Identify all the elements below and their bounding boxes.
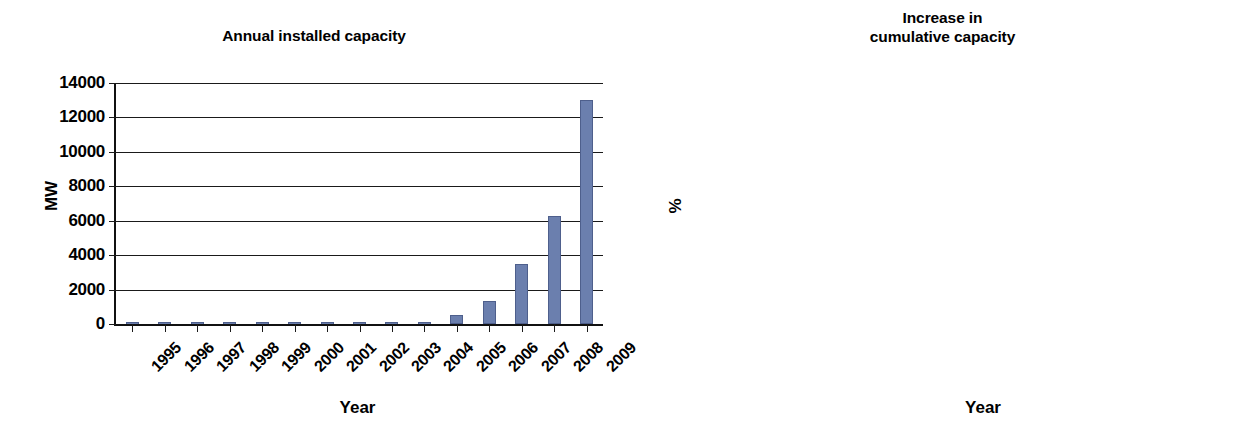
gridline-horizontal bbox=[116, 152, 603, 153]
y-axis-tick bbox=[109, 117, 116, 118]
bar-2008 bbox=[548, 216, 561, 324]
bar-2006 bbox=[483, 301, 496, 324]
gridline-horizontal bbox=[116, 255, 603, 256]
x-axis-tick bbox=[132, 324, 133, 332]
x-axis-tick-label: 2003 bbox=[408, 339, 445, 376]
y-axis-tick bbox=[109, 290, 116, 291]
x-axis-tick-label: 2000 bbox=[311, 339, 348, 376]
y-axis-tick bbox=[109, 324, 116, 325]
x-axis-tick bbox=[424, 324, 425, 332]
chart-title-annual-installed-capacity: Annual installed capacity bbox=[0, 26, 628, 45]
y-axis-tick-label: 8000 bbox=[68, 176, 105, 196]
bar-2007 bbox=[515, 264, 528, 324]
x-axis-tick bbox=[522, 324, 523, 332]
bar-1995 bbox=[126, 322, 139, 324]
chart-title-line-2: cumulative capacity bbox=[628, 27, 1257, 46]
bar-2003 bbox=[385, 322, 398, 324]
bar-2002 bbox=[353, 322, 366, 324]
gridline-horizontal bbox=[116, 221, 603, 222]
y-axis-tick-label: 6000 bbox=[68, 211, 105, 231]
y-axis-tick-label: 4000 bbox=[68, 245, 105, 265]
y-axis-tick-label: 12000 bbox=[59, 107, 105, 127]
y-axis-tick bbox=[109, 152, 116, 153]
x-axis-tick-label: 1997 bbox=[213, 339, 250, 376]
plot-area-bar: 0200040006000800010000120001400019951996… bbox=[114, 83, 603, 326]
x-axis-label-year-left: Year bbox=[114, 398, 601, 418]
chart-title-line-1: Increase in bbox=[628, 8, 1257, 27]
x-axis-tick bbox=[457, 324, 458, 332]
x-axis-tick bbox=[392, 324, 393, 332]
bar-2005 bbox=[450, 315, 463, 324]
x-axis-tick-label: 1995 bbox=[148, 339, 185, 376]
x-axis-tick bbox=[295, 324, 296, 332]
bar-2004 bbox=[418, 322, 431, 324]
x-axis-tick-label: 1996 bbox=[181, 339, 218, 376]
x-axis-tick-label: 2005 bbox=[473, 339, 510, 376]
bar-2001 bbox=[321, 322, 334, 324]
x-axis-tick bbox=[327, 324, 328, 332]
bar-1996 bbox=[158, 322, 171, 324]
x-axis-tick bbox=[554, 324, 555, 332]
y-axis-tick bbox=[109, 221, 116, 222]
x-axis-tick-label: 2004 bbox=[440, 339, 477, 376]
y-axis-tick bbox=[109, 255, 116, 256]
x-axis-tick bbox=[489, 324, 490, 332]
y-axis-tick-label: 2000 bbox=[68, 280, 105, 300]
bar-2009 bbox=[580, 100, 593, 324]
chart-panel-increase-in-cumulative-capacity: Increase in cumulative capacity % 020406… bbox=[628, 0, 1257, 427]
x-axis-tick-label: 2006 bbox=[505, 339, 542, 376]
x-axis-tick-label: 2001 bbox=[343, 339, 380, 376]
y-axis-label-percent: % bbox=[666, 176, 686, 236]
bar-1999 bbox=[256, 322, 269, 324]
y-axis-tick-label: 14000 bbox=[59, 73, 105, 93]
y-axis-tick-label: 0 bbox=[96, 314, 105, 334]
chart-panel-annual-installed-capacity: Annual installed capacity MW 02000400060… bbox=[0, 0, 628, 427]
x-axis-tick bbox=[360, 324, 361, 332]
gridline-horizontal bbox=[116, 83, 603, 84]
x-axis-tick-label: 1999 bbox=[278, 339, 315, 376]
x-axis-tick bbox=[262, 324, 263, 332]
y-axis-tick bbox=[109, 186, 116, 187]
bar-1997 bbox=[191, 322, 204, 324]
x-axis-tick-label: 2002 bbox=[375, 339, 412, 376]
y-axis-tick-label: 10000 bbox=[59, 142, 105, 162]
gridline-horizontal bbox=[116, 117, 603, 118]
figure-two-panel-charts: Annual installed capacity MW 02000400060… bbox=[0, 0, 1257, 427]
bar-1998 bbox=[223, 322, 236, 324]
x-axis-tick bbox=[587, 324, 588, 332]
chart-title-increase-in-cumulative-capacity: Increase in cumulative capacity bbox=[628, 8, 1257, 46]
x-axis-tick bbox=[165, 324, 166, 332]
x-axis-tick-label: 2008 bbox=[570, 339, 607, 376]
y-axis-tick bbox=[109, 83, 116, 84]
bar-2000 bbox=[288, 322, 301, 324]
x-axis-tick bbox=[197, 324, 198, 332]
x-axis-tick-label: 1998 bbox=[246, 339, 283, 376]
gridline-horizontal bbox=[116, 290, 603, 291]
x-axis-label-year-right: Year bbox=[740, 398, 1226, 418]
x-axis-tick bbox=[230, 324, 231, 332]
x-axis-tick-label: 2007 bbox=[538, 339, 575, 376]
gridline-horizontal bbox=[116, 186, 603, 187]
